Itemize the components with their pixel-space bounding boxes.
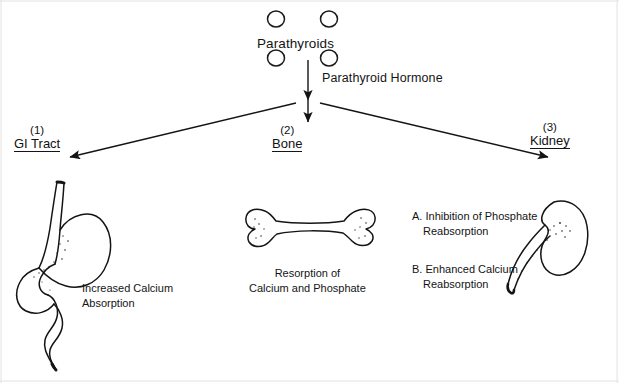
parathyroid-hormone-diagram: Parathyroids Parathyroid Hormone (1) GI … xyxy=(0,0,619,383)
scan-edge-artifact xyxy=(0,0,619,383)
